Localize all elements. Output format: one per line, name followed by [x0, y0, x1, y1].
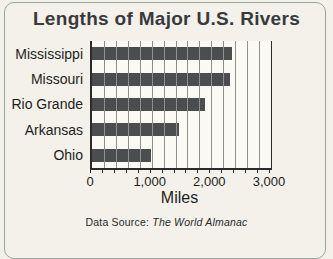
gridline — [140, 41, 141, 168]
tick-mark — [114, 170, 115, 173]
tick-mark — [138, 170, 139, 173]
data-source-prefix: Data Source: — [85, 216, 152, 228]
gridline — [104, 41, 105, 168]
category-label-ohio: Ohio — [0, 143, 83, 168]
tick-mark — [126, 170, 127, 173]
x-tick-label: 0 — [86, 174, 93, 189]
tick-mark — [197, 170, 198, 173]
x-tick-label: 2,000 — [193, 174, 226, 189]
tick-mark — [162, 170, 163, 173]
gridline — [152, 41, 153, 168]
category-label-arkansas: Arkansas — [0, 117, 83, 142]
bar-ohio — [92, 149, 151, 162]
data-source-name: The World Almanac — [152, 216, 247, 228]
category-label-mississippi: Mississippi — [0, 41, 83, 66]
gridline — [235, 41, 236, 168]
bar-missouri — [92, 73, 230, 86]
tick-mark — [233, 170, 234, 173]
tick-mark — [174, 170, 175, 173]
tick-mark — [209, 170, 210, 173]
x-axis-title: Miles — [90, 189, 269, 207]
gridline — [176, 41, 177, 168]
tick-mark — [269, 170, 270, 173]
tick-mark — [185, 170, 186, 173]
x-tick-labels: 01,0002,0003,000 — [90, 174, 269, 188]
bar-arkansas — [92, 123, 179, 136]
chart-title: Lengths of Major U.S. Rivers — [0, 8, 333, 30]
gridline — [116, 41, 117, 168]
tick-mark — [102, 170, 103, 173]
gridline — [211, 41, 212, 168]
gridline — [164, 41, 165, 168]
gridline — [259, 41, 260, 168]
gridline — [128, 41, 129, 168]
gridline — [187, 41, 188, 168]
gridline — [247, 41, 248, 168]
category-labels: MississippiMissouriRio GrandeArkansasOhi… — [0, 41, 83, 168]
x-tick-label: 1,000 — [133, 174, 166, 189]
category-label-missouri: Missouri — [0, 66, 83, 91]
gridline — [223, 41, 224, 168]
gridline — [199, 41, 200, 168]
data-source: Data Source: The World Almanac — [0, 216, 333, 228]
category-label-rio-grande: Rio Grande — [0, 92, 83, 117]
tick-mark — [245, 170, 246, 173]
x-tick-label: 3,000 — [253, 174, 286, 189]
tick-mark — [90, 170, 91, 173]
tick-mark — [150, 170, 151, 173]
plot-area — [90, 41, 272, 170]
tick-mark — [257, 170, 258, 173]
tick-mark — [221, 170, 222, 173]
